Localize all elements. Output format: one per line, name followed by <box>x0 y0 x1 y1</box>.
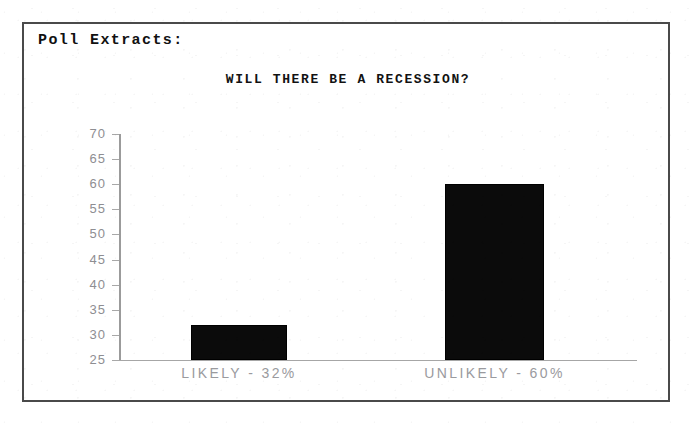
y-tick-mark <box>112 234 119 235</box>
y-tick-mark <box>112 310 119 311</box>
bar-category-label: LIKELY - 32% <box>129 365 349 381</box>
y-tick-mark <box>112 159 119 160</box>
x-axis-line <box>119 360 637 361</box>
y-tick-label: 35 <box>66 303 106 316</box>
y-tick-mark <box>112 360 119 361</box>
y-tick-mark <box>112 209 119 210</box>
y-tick-mark <box>112 184 119 185</box>
y-tick-mark <box>112 134 119 135</box>
y-tick-label: 25 <box>66 353 106 366</box>
y-tick-label: 45 <box>66 253 106 266</box>
y-tick-label: 40 <box>66 278 106 291</box>
poll-extract-box: Poll Extracts: WILL THERE BE A RECESSION… <box>22 22 670 402</box>
bar-category-label: UNLIKELY - 60% <box>385 365 605 381</box>
bar <box>445 184 544 360</box>
y-tick-mark <box>112 285 119 286</box>
y-tick-mark <box>112 260 119 261</box>
y-tick-label: 70 <box>66 127 106 140</box>
y-tick-label: 65 <box>66 152 106 165</box>
bar-chart: 70656055504540353025 LIKELY - 32%UNLIKEL… <box>24 24 672 404</box>
y-tick-label: 55 <box>66 202 106 215</box>
cut-off-header-text: the next 6 months. <box>0 0 693 3</box>
y-axis-line <box>119 134 121 361</box>
bar <box>191 325 287 360</box>
y-tick-label: 60 <box>66 177 106 190</box>
y-tick-mark <box>112 335 119 336</box>
y-tick-label: 50 <box>66 227 106 240</box>
y-tick-label: 30 <box>66 328 106 341</box>
